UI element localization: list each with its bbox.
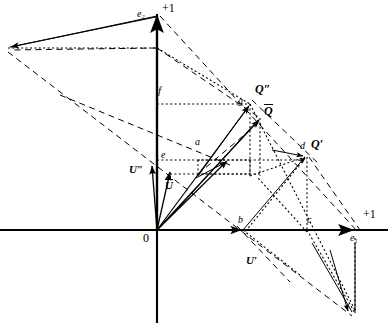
dashed-U-prime xyxy=(237,226,290,282)
label-Q-bar-text: Q xyxy=(264,104,273,118)
label-e1-subscript: 1 xyxy=(354,237,357,244)
dashed-left-to-a xyxy=(60,95,230,165)
label-U-bar-text: U xyxy=(165,179,173,192)
label-e: e xyxy=(161,150,165,160)
label-Q-prime: Q′ xyxy=(311,138,323,150)
label-e2-subscript: 2 xyxy=(141,13,144,20)
dotted-b-down-right xyxy=(243,230,300,275)
dotted-construction xyxy=(8,48,355,313)
label-e1-basis: e1 xyxy=(350,233,358,244)
label-x-unit: +1 xyxy=(363,208,376,220)
label-origin: 0 xyxy=(143,232,149,244)
arrow-bottom-right-down xyxy=(330,250,348,311)
label-U-double-prime: U″ xyxy=(129,164,143,175)
label-c: c xyxy=(307,215,311,225)
thin-solid-framework xyxy=(10,17,355,313)
dotted-f-corner-diagonal xyxy=(157,48,250,104)
line-upperleft-to-e2tip xyxy=(10,17,156,47)
center-dotted-box xyxy=(198,160,250,174)
vector-O-to-a xyxy=(157,161,227,230)
line-b-to-Qprime xyxy=(243,157,305,230)
dashed-through-Qdp xyxy=(157,48,260,118)
label-b: b xyxy=(238,215,243,225)
label-e2-basis: e2 xyxy=(137,9,145,20)
dashed-box-crossing xyxy=(198,120,262,174)
label-y-unit: +1 xyxy=(162,2,175,14)
solid-vectors xyxy=(152,16,353,230)
dashed-Qdp-to-Qprime xyxy=(252,100,320,165)
label-U-bar: U xyxy=(165,179,173,192)
dashed-e2tip-to-xaxis xyxy=(160,16,358,232)
line-bottomright-slant xyxy=(312,243,352,312)
vector-geometry-figure: +1 e2 f g Q″ Q a e d Q′ U″ U 0 b c +1 e1… xyxy=(0,0,388,323)
dashed-Qprime-onward xyxy=(309,157,360,230)
label-Q-double-prime: Q″ xyxy=(255,83,270,95)
label-a: a xyxy=(195,137,200,147)
arrow-to-a xyxy=(196,162,226,178)
label-f: f xyxy=(158,85,161,96)
dashed-upperleft-to-bottomright xyxy=(8,52,352,316)
axis-group xyxy=(0,14,388,323)
label-U-prime: U′ xyxy=(246,255,257,266)
figure-canvas xyxy=(0,0,388,323)
label-g: g xyxy=(238,96,243,106)
dotted-c-to-bottom-right xyxy=(307,230,355,313)
label-Q-bar: Q xyxy=(264,104,273,118)
label-d: d xyxy=(300,141,305,151)
